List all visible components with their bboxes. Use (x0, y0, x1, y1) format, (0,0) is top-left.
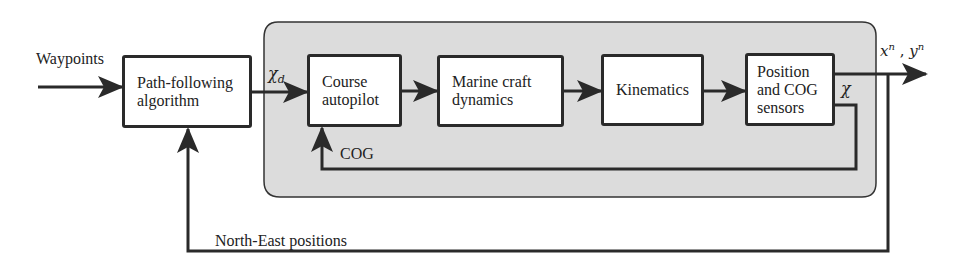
cog-label: COG (340, 145, 374, 163)
block-label: Marine craft (452, 73, 532, 91)
block-label: and COG (757, 81, 818, 99)
block-label: Kinematics (616, 81, 689, 99)
chi-label: χ (841, 80, 851, 98)
separator: , (895, 42, 909, 60)
north-east-positions-label: North-East positions (215, 232, 347, 250)
position-cog-sensors-block: Positionand COGsensors (745, 53, 835, 126)
block-label: algorithm (137, 92, 233, 110)
position-output-label: xn , yn (880, 38, 924, 60)
block-label: Path-following (137, 74, 233, 92)
y-superscript: n (918, 41, 924, 52)
kinematics-block: Kinematics (601, 54, 704, 126)
y-symbol: y (909, 42, 917, 60)
block-label: sensors (757, 99, 818, 117)
chi-d-label: χd (268, 65, 285, 89)
waypoints-label: Waypoints (36, 50, 104, 68)
block-label: dynamics (452, 91, 532, 109)
chi-symbol: χ (268, 64, 278, 83)
chi-subscript: d (278, 73, 285, 86)
marine-craft-dynamics-block: Marine craftdynamics (437, 55, 564, 127)
block-label: Position (757, 63, 818, 81)
block-label: Course (322, 73, 379, 91)
course-autopilot-block: Courseautopilot (307, 54, 402, 127)
path-following-block: Path-followingalgorithm (122, 55, 252, 128)
diagram-canvas (0, 0, 964, 272)
block-label: autopilot (322, 91, 379, 109)
